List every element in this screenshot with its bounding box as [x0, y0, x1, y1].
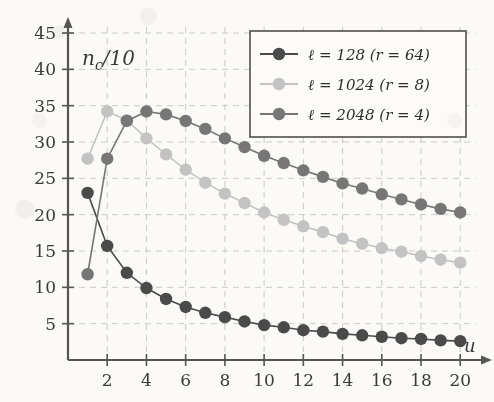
x-tick-label: 20	[449, 370, 471, 390]
x-tick-label: 6	[180, 370, 191, 390]
data-point-marker	[278, 321, 290, 333]
y-tick-label: 45	[34, 23, 56, 43]
chart-figure: 510152025303540452468101214161820nc/10uℓ…	[0, 0, 494, 402]
data-point-marker	[356, 238, 368, 250]
data-point-marker	[121, 115, 133, 127]
y-axis-arrow	[64, 17, 73, 28]
legend-swatch-marker	[273, 108, 285, 120]
data-point-marker	[415, 333, 427, 345]
data-point-marker	[81, 268, 93, 280]
data-point-marker	[434, 203, 446, 215]
x-tick-label: 16	[371, 370, 393, 390]
x-tick-label: 10	[253, 370, 275, 390]
data-point-marker	[376, 188, 388, 200]
x-tick-label: 12	[293, 370, 315, 390]
y-tick-label: 35	[34, 96, 56, 116]
data-point-marker	[297, 324, 309, 336]
data-point-marker	[434, 254, 446, 266]
x-tick-label: 4	[141, 370, 152, 390]
data-point-marker	[81, 187, 93, 199]
data-point-marker	[160, 148, 172, 160]
data-point-marker	[376, 331, 388, 343]
data-point-marker	[238, 141, 250, 153]
legend-swatch-marker	[273, 48, 285, 60]
data-point-marker	[160, 293, 172, 305]
data-point-marker	[258, 319, 270, 331]
y-tick-label: 20	[34, 205, 56, 225]
data-point-marker	[376, 242, 388, 254]
y-tick-label: 25	[34, 168, 56, 188]
data-point-marker	[179, 115, 191, 127]
data-point-marker	[140, 105, 152, 117]
data-point-marker	[356, 182, 368, 194]
y-tick-label: 5	[45, 314, 56, 334]
data-point-marker	[258, 206, 270, 218]
x-axis-arrow	[481, 356, 492, 365]
legend-item-label: ℓ = 1024 (r = 8)	[308, 76, 430, 94]
legend-item-label: ℓ = 128 (r = 64)	[308, 46, 430, 64]
data-point-marker	[179, 301, 191, 313]
legend-item-label: ℓ = 2048 (r = 4)	[308, 106, 430, 124]
data-point-marker	[219, 187, 231, 199]
y-axis-title: nc/10	[82, 46, 135, 73]
data-point-marker	[258, 150, 270, 162]
data-point-marker	[160, 108, 172, 120]
data-point-marker	[278, 157, 290, 169]
data-point-marker	[199, 176, 211, 188]
data-point-marker	[101, 105, 113, 117]
y-tick-label: 10	[34, 277, 56, 297]
data-point-marker	[336, 328, 348, 340]
data-point-marker	[278, 214, 290, 226]
x-tick-label: 8	[219, 370, 230, 390]
data-point-marker	[219, 132, 231, 144]
data-point-marker	[199, 307, 211, 319]
data-point-marker	[317, 325, 329, 337]
data-point-marker	[434, 334, 446, 346]
legend-swatch-marker	[273, 78, 285, 90]
data-point-marker	[140, 132, 152, 144]
data-point-marker	[454, 256, 466, 268]
data-point-marker	[395, 332, 407, 344]
data-point-marker	[415, 250, 427, 262]
data-point-marker	[395, 246, 407, 258]
data-point-marker	[336, 177, 348, 189]
data-point-marker	[238, 315, 250, 327]
data-point-marker	[81, 153, 93, 165]
data-point-marker	[454, 335, 466, 347]
data-point-marker	[317, 226, 329, 238]
x-tick-label: 14	[332, 370, 354, 390]
x-axis-title: u	[464, 335, 476, 356]
series-line	[88, 193, 461, 341]
data-point-marker	[395, 193, 407, 205]
data-point-marker	[199, 123, 211, 135]
data-point-marker	[140, 282, 152, 294]
data-point-marker	[179, 163, 191, 175]
y-tick-label: 15	[34, 241, 56, 261]
data-point-marker	[336, 232, 348, 244]
data-point-marker	[317, 171, 329, 183]
data-point-marker	[356, 329, 368, 341]
data-point-marker	[297, 220, 309, 232]
x-tick-label: 18	[410, 370, 432, 390]
data-point-marker	[454, 206, 466, 218]
x-tick-label: 2	[102, 370, 113, 390]
data-point-marker	[238, 197, 250, 209]
legend: ℓ = 128 (r = 64)ℓ = 1024 (r = 8)ℓ = 2048…	[250, 31, 466, 137]
data-point-marker	[219, 311, 231, 323]
line-chart-canvas: 510152025303540452468101214161820nc/10uℓ…	[0, 0, 494, 402]
data-point-marker	[101, 240, 113, 252]
data-point-marker	[121, 267, 133, 279]
data-point-marker	[297, 164, 309, 176]
y-tick-label: 40	[34, 59, 56, 79]
data-point-marker	[101, 153, 113, 165]
data-point-marker	[415, 198, 427, 210]
y-tick-label: 30	[34, 132, 56, 152]
